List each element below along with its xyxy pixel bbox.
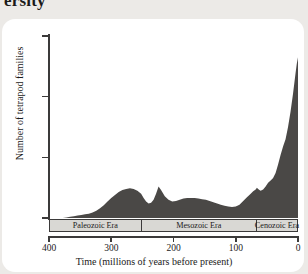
era-paleozoic: Paleozoic Era: [49, 219, 142, 232]
x-tick-label: 300: [104, 243, 118, 253]
era-band: Paleozoic EraMesozoic EraCenozoic Era: [49, 219, 298, 232]
x-tick-label: 400: [42, 243, 56, 253]
tetrapod-diversity-area: [49, 36, 298, 218]
era-mesozoic: Mesozoic Era: [141, 219, 257, 232]
y-tick-300: [42, 35, 48, 37]
y-tick-0: [42, 217, 48, 219]
x-tick-label: 200: [166, 243, 180, 253]
x-tick-label: 100: [229, 243, 243, 253]
plot-area: [49, 36, 298, 218]
x-tick-400: [48, 236, 50, 242]
y-tick-200: [42, 96, 48, 98]
x-tick-0: [297, 236, 299, 242]
x-tick-200: [173, 236, 175, 242]
y-axis-labels: 0100200300: [0, 0, 40, 274]
y-tick-100: [42, 157, 48, 159]
x-tick-label: 0: [296, 243, 301, 253]
era-cenozoic: Cenozoic Era: [256, 219, 298, 232]
x-tick-100: [235, 236, 237, 242]
x-axis-title: Time (millions of years before present): [0, 256, 308, 267]
figure-container: ersity Number of tetrapod families 01002…: [0, 0, 308, 274]
x-tick-300: [110, 236, 112, 242]
